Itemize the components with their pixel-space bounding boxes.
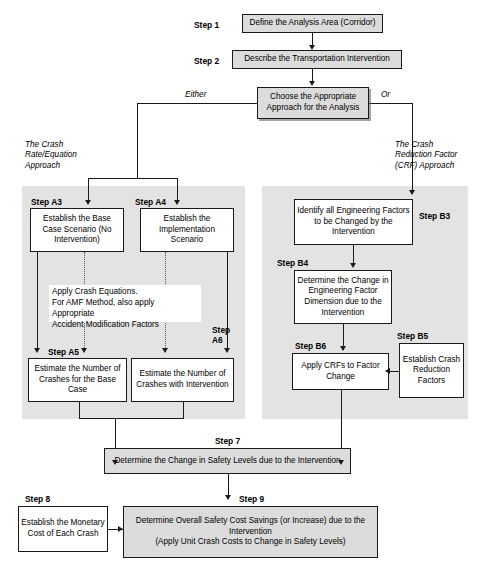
step-1-label: Step 1 bbox=[194, 20, 219, 30]
step-b4-box: Determine the Change in Engineering Fact… bbox=[294, 270, 392, 324]
step-b6-box: Apply CRFs to Factor Change bbox=[292, 353, 389, 390]
step-b3-box: Identify all Engineering Factors to be C… bbox=[294, 199, 413, 245]
step-b5-box: Establish Crash Reduction Factors bbox=[399, 343, 464, 398]
step-2-text: Describe the Transportation Intervention bbox=[244, 54, 390, 65]
or-label: Or bbox=[381, 90, 390, 100]
connector-or-horizontal bbox=[369, 103, 413, 104]
connector-a6-join bbox=[183, 402, 184, 418]
connector-to-a4 bbox=[177, 178, 178, 202]
step-a4-text: Establish the Implementation Scenario bbox=[143, 214, 231, 246]
step-7-label: Step 7 bbox=[215, 436, 240, 446]
arrow-a3-a5 bbox=[34, 348, 40, 353]
step-a5-text: Estimate the Number of Crashes for the B… bbox=[31, 364, 124, 396]
step-b4-text: Determine the Change in Engineering Fact… bbox=[297, 276, 389, 318]
step-b5-label: Step B5 bbox=[397, 331, 428, 341]
step-b6-text: Apply CRFs to Factor Change bbox=[295, 361, 386, 382]
step-a3-box: Establish the Base Case Scenario (No Int… bbox=[30, 208, 124, 252]
step-b3-text: Identify all Engineering Factors to be C… bbox=[297, 206, 410, 238]
connector-to-a3 bbox=[88, 178, 89, 202]
arrow-step8-step9 bbox=[118, 526, 123, 532]
crash-equations-note: Apply Crash Equations. For AMF Method, a… bbox=[49, 285, 201, 322]
step-9-text-line2: (Apply Unit Crash Costs to Change in Saf… bbox=[155, 537, 345, 548]
connector-a5a6-merge bbox=[79, 418, 184, 419]
step-a5-label: Step A5 bbox=[48, 347, 79, 357]
step-9-box: Determine Overall Safety Cost Savings (o… bbox=[123, 506, 378, 558]
arrow-step1-step2 bbox=[309, 45, 315, 50]
flowchart-canvas: Step 1 Define the Analysis Area (Corrido… bbox=[0, 0, 494, 570]
step-a4-box: Establish the Implementation Scenario bbox=[140, 208, 234, 252]
arrow-to-b3 bbox=[409, 190, 415, 195]
step-a4-label: Step A4 bbox=[135, 197, 166, 207]
connector-either-horizontal bbox=[137, 103, 257, 104]
step-8-label: Step 8 bbox=[25, 494, 50, 504]
step-a6-text: Estimate the Number of Crashes with Inte… bbox=[134, 369, 231, 390]
connector-b3-b4 bbox=[353, 245, 354, 265]
step-a5-box: Estimate the Number of Crashes for the B… bbox=[28, 358, 127, 402]
step-8-box: Establish the Monetary Cost of Each Cras… bbox=[18, 506, 108, 552]
arrow-b3-b4 bbox=[350, 263, 356, 268]
arrow-step2-choose bbox=[309, 81, 315, 86]
step-b4-label: Step B4 bbox=[277, 258, 308, 268]
arrow-note-a6 bbox=[162, 348, 168, 353]
choose-approach-text: Choose the Appropriate Approach for the … bbox=[260, 92, 366, 113]
left-approach-label: The Crash Rate/Equation Approach bbox=[25, 140, 77, 171]
step-1-box: Define the Analysis Area (Corridor) bbox=[242, 14, 383, 33]
step-a3-text: Establish the Base Case Scenario (No Int… bbox=[33, 214, 121, 246]
arrow-b5-b6 bbox=[385, 368, 390, 374]
connector-either-split bbox=[88, 178, 178, 179]
arrow-right-to-step7 bbox=[338, 460, 344, 465]
step-b5-text: Establish Crash Reduction Factors bbox=[402, 355, 461, 387]
step-a6-label: Step A6 bbox=[212, 325, 230, 345]
right-approach-label: The Crash Reduction Factor (CRF) Approac… bbox=[395, 140, 457, 171]
step-2-label: Step 2 bbox=[194, 56, 219, 66]
choose-approach-box: Choose the Appropriate Approach for the … bbox=[257, 87, 369, 119]
connector-either-vertical bbox=[137, 103, 138, 179]
either-label: Either bbox=[185, 90, 206, 100]
step-9-label: Step 9 bbox=[239, 494, 264, 504]
arrow-to-a4 bbox=[174, 200, 180, 205]
step-a6-box: Estimate the Number of Crashes with Inte… bbox=[131, 358, 234, 402]
step-7-text: Determine the Change in Safety Levels du… bbox=[114, 456, 340, 467]
step-9-text-line1: Determine Overall Safety Cost Savings (o… bbox=[126, 516, 375, 537]
step-7-box: Determine the Change in Safety Levels du… bbox=[104, 448, 351, 474]
step-8-text: Establish the Monetary Cost of Each Cras… bbox=[21, 518, 105, 539]
step-a3-label: Step A3 bbox=[31, 197, 62, 207]
arrow-to-a3 bbox=[85, 200, 91, 205]
connector-a3-a5 bbox=[37, 252, 38, 350]
arrow-step7-step9 bbox=[225, 495, 231, 500]
arrow-note-a5 bbox=[81, 348, 87, 353]
connector-a5-join bbox=[79, 402, 80, 418]
step-2-box: Describe the Transportation Intervention bbox=[232, 50, 402, 69]
arrow-a4-a6 bbox=[224, 348, 230, 353]
arrow-left-to-step7 bbox=[112, 460, 118, 465]
step-1-text: Define the Analysis Area (Corridor) bbox=[249, 18, 375, 29]
step-b3-label: Step B3 bbox=[419, 211, 450, 221]
arrow-b4-b6 bbox=[340, 346, 346, 351]
step-b6-label: Step B6 bbox=[295, 341, 326, 351]
